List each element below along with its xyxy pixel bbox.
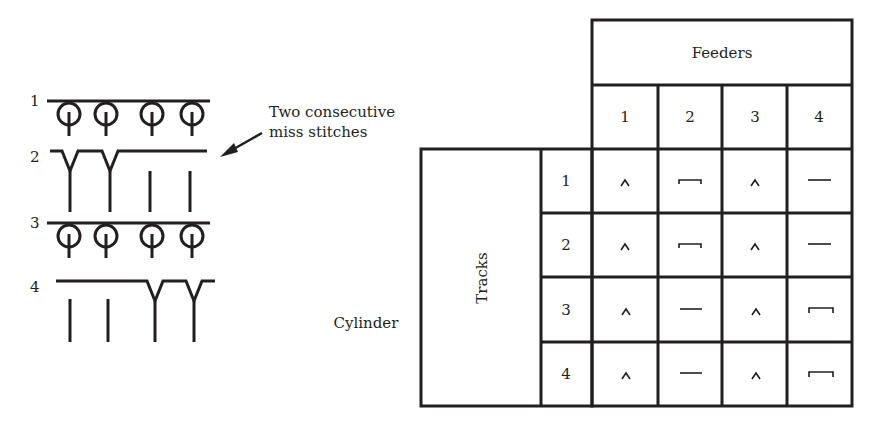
feeder-number-3: 3 <box>750 108 760 126</box>
track-number-1: 1 <box>561 172 571 190</box>
knit-cam-icon <box>751 180 759 186</box>
knit-cam-icon <box>621 180 629 186</box>
feeders-header: Feeders <box>692 44 753 62</box>
tuck-cam-icon <box>809 308 833 313</box>
feeder-number-2: 2 <box>685 108 695 126</box>
tuck-cam-icon <box>679 244 701 248</box>
tuck-cam-icon <box>809 372 833 377</box>
tracks-label: Tracks <box>473 252 491 303</box>
feeder-number-1: 1 <box>620 108 630 126</box>
cylinder-label: Cylinder <box>334 314 400 332</box>
knit-cam-icon <box>621 244 629 250</box>
knit-cam-icon <box>622 373 630 379</box>
knit-cam-icon <box>622 309 630 315</box>
tuck-cam-icon <box>679 180 701 184</box>
track-number-4: 4 <box>561 365 571 383</box>
cam-cells <box>621 180 833 379</box>
knit-cam-icon <box>752 309 760 315</box>
feeder-number-4: 4 <box>814 108 824 126</box>
knit-cam-icon <box>751 244 759 250</box>
track-number-3: 3 <box>561 301 571 319</box>
knit-cam-icon <box>752 373 760 379</box>
track-number-2: 2 <box>561 236 571 254</box>
cam-table-text: Feeders 1 2 3 4 1 2 3 4 Tracks Cylinder <box>0 0 875 434</box>
